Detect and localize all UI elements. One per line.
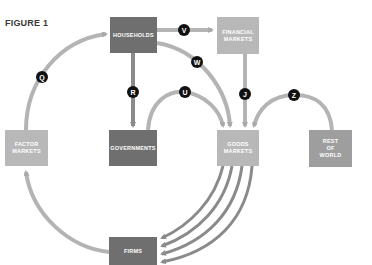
flow-label-w: W [191,56,203,68]
flow-label-r: R [127,86,139,98]
node-firms-label: FIRMS [124,248,142,255]
node-goods-markets-line2: MARKETS [224,148,253,155]
node-rest-of-world: REST OF WORLD [309,130,352,167]
node-factor-markets-line1: FACTOR [12,141,41,148]
node-goods-markets-line1: GOODS [224,141,253,148]
flow-label-v: V [178,24,190,36]
flow-label-j: J [239,88,251,100]
node-financial-markets: FINANCIAL MARKETS [217,17,259,54]
node-households-label: HOUSEHOLDS [113,32,154,39]
flow-label-q: Q [36,71,48,83]
node-financial-markets-line2: MARKETS [222,36,253,43]
node-goods-markets: GOODS MARKETS [217,130,259,166]
flow-label-z: Z [288,89,300,101]
node-financial-markets-line1: FINANCIAL [222,29,253,36]
flow-label-u: U [179,86,191,98]
node-governments-label: GOVERNMENTS [110,145,155,152]
node-factor-markets: FACTOR MARKETS [5,130,48,166]
node-factor-markets-line2: MARKETS [12,148,41,155]
node-households: HOUSEHOLDS [110,17,157,53]
flow-firms-factor [26,172,109,252]
node-rest-of-world-line3: WORLD [320,152,342,159]
node-rest-of-world-line1: REST [320,138,342,145]
node-rest-of-world-line2: OF [320,145,342,152]
node-firms: FIRMS [109,237,157,265]
node-governments: GOVERNMENTS [109,130,157,166]
